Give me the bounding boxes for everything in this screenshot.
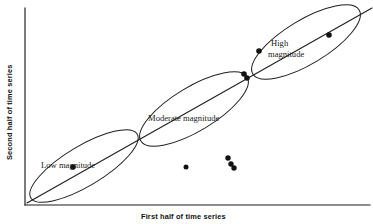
- cluster-label-low-magnitude: Low magnitude: [41, 160, 95, 170]
- data-point: [244, 75, 250, 81]
- diagonal-reference-line: [27, 8, 372, 203]
- cluster-label-high-magnitude-line1: High: [271, 38, 289, 48]
- trend-line-group: [27, 8, 372, 203]
- scatter-plot-figure: Low magnitude Moderate magnitude High ma…: [0, 0, 373, 224]
- cluster-label-high-magnitude-line2: magnitude: [268, 49, 304, 59]
- data-point: [326, 32, 332, 38]
- axis-titles-group: First half of time series Second half of…: [5, 65, 226, 222]
- x-axis-label: First half of time series: [141, 212, 226, 221]
- cluster-labels-group: Low magnitude Moderate magnitude High ma…: [41, 38, 304, 170]
- data-point: [256, 48, 262, 54]
- data-point: [225, 155, 230, 160]
- cluster-ellipse-high-magnitude: [242, 0, 371, 93]
- data-point: [184, 165, 189, 170]
- data-point: [231, 165, 236, 170]
- y-axis-label: Second half of time series: [5, 65, 14, 161]
- cluster-label-moderate-magnitude: Moderate magnitude: [148, 113, 220, 123]
